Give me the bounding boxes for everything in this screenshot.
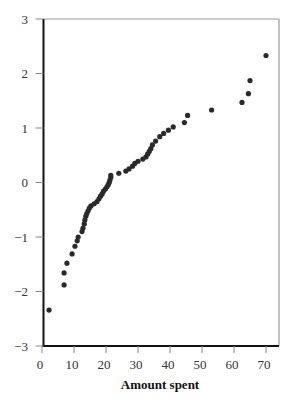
x-axis-ticks: 010203040506070 — [37, 346, 271, 372]
data-point — [263, 53, 268, 58]
x-tick-label: 0 — [37, 357, 44, 372]
data-point — [182, 120, 187, 125]
data-point — [72, 244, 77, 249]
x-tick-label: 10 — [66, 357, 79, 372]
data-point — [46, 307, 51, 312]
x-tick-label: 70 — [258, 357, 271, 372]
data-point — [69, 251, 74, 256]
data-point — [153, 138, 158, 143]
data-point — [239, 100, 244, 105]
data-point — [209, 107, 214, 112]
x-axis-title: Amount spent — [121, 377, 200, 392]
data-point — [246, 91, 251, 96]
x-tick-label: 20 — [98, 357, 111, 372]
data-point — [135, 159, 140, 164]
data-point — [161, 131, 166, 136]
data-point — [64, 261, 69, 266]
data-point — [61, 282, 66, 287]
y-tick-label: 0 — [22, 175, 29, 190]
x-tick-label: 40 — [162, 357, 175, 372]
y-tick-label: 2 — [22, 66, 29, 81]
x-tick-label: 30 — [130, 357, 143, 372]
data-point — [171, 124, 176, 129]
y-axis-ticks: 3210−1−2−3 — [14, 12, 43, 354]
y-tick-label: −2 — [14, 284, 28, 299]
data-points — [46, 53, 268, 313]
data-point — [116, 171, 121, 176]
x-tick-label: 60 — [226, 357, 239, 372]
x-tick-label: 50 — [194, 357, 207, 372]
probability-plot: 3210−1−2−3 010203040506070 Amount spent — [0, 0, 290, 406]
y-tick-label: −1 — [14, 230, 28, 245]
data-point — [247, 78, 252, 83]
data-point — [76, 234, 81, 239]
data-point — [185, 113, 190, 118]
data-point — [166, 128, 171, 133]
y-tick-label: 1 — [22, 121, 29, 136]
y-tick-label: −3 — [14, 339, 28, 354]
data-point — [61, 270, 66, 275]
y-tick-label: 3 — [22, 12, 29, 27]
data-point — [108, 173, 113, 178]
plot-frame — [43, 19, 280, 347]
